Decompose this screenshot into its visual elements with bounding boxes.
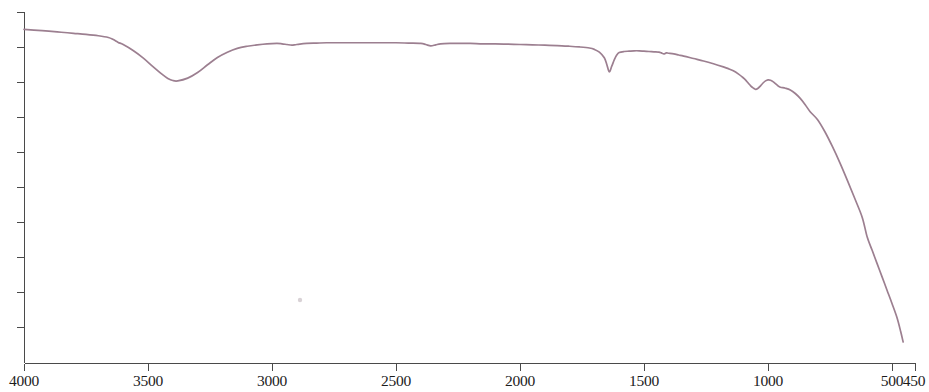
x-axis-tick-label-group: 4000350030002500200015001000500450 — [9, 372, 926, 389]
y-axis-ticks — [17, 13, 25, 328]
page-speck — [298, 298, 302, 302]
x-tick-label-3500: 3500 — [133, 372, 164, 389]
x-tick-label-4000: 4000 — [9, 372, 40, 389]
x-tick-label-500: 500 — [881, 372, 904, 389]
x-tick-label-1500: 1500 — [629, 372, 660, 389]
x-tick-label-2000: 2000 — [505, 372, 536, 389]
x-axis-ticks — [25, 364, 916, 372]
x-tick-label-1000: 1000 — [753, 372, 784, 389]
spectrum-plot-canvas: 4000350030002500200015001000500450 — [0, 0, 929, 392]
x-tick-label-2500: 2500 — [381, 372, 412, 389]
ftir-spectrum-figure: 4000350030002500200015001000500450 — [0, 0, 929, 392]
spectrum-curve — [24, 29, 903, 342]
x-tick-label-3000: 3000 — [257, 372, 288, 389]
x-tick-label-450: 450 — [903, 372, 926, 389]
